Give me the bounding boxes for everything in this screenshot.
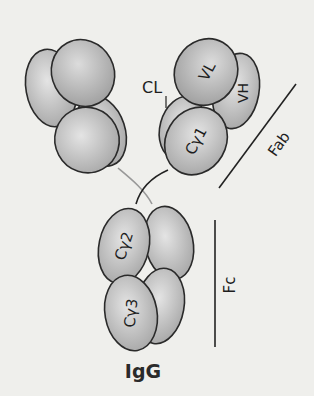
hinge-region [118,168,168,204]
fc-label: Fc [221,277,239,294]
diagram-title: IgG [125,360,161,382]
ch3-label: Cγ3 [121,298,142,329]
cl-label: CL [142,78,162,97]
left-fab-arm [20,28,135,184]
right-fab-arm: VL VH Cγ1 CL [142,27,265,186]
fc-region: Cγ2 Cγ3 [92,202,201,355]
fab-label: Fab [264,128,294,160]
fc-bracket: Fc [215,220,239,347]
vh-label: VH [235,83,251,103]
igg-antibody-diagram: VL VH Cγ1 CL Fab Cγ2 Cγ3 Fc IgG [0,0,314,396]
